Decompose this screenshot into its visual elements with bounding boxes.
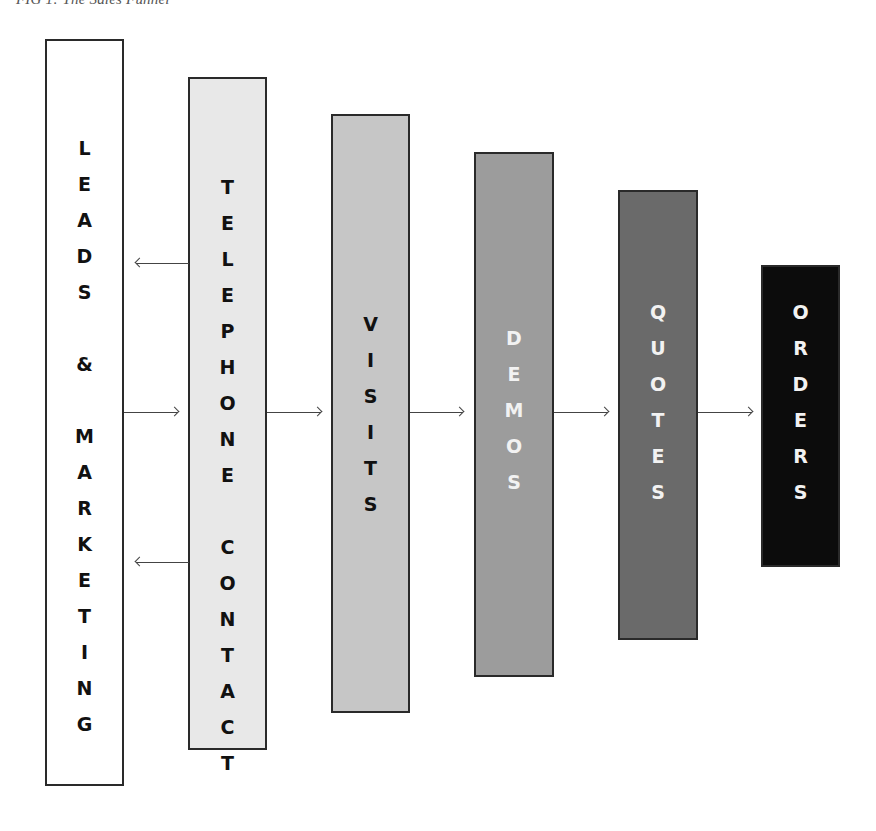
- stage-letter: G: [47, 706, 122, 742]
- stage-letter: O: [620, 366, 696, 402]
- stage-label: ORDERS: [763, 294, 838, 510]
- stage-letter: S: [333, 378, 408, 414]
- stage-letter: S: [620, 474, 696, 510]
- stage-letter: I: [47, 634, 122, 670]
- stage-letter: E: [190, 457, 265, 493]
- stage-quotes: QUOTES: [618, 190, 698, 640]
- arrow-telephone-to-leads-upper: [136, 263, 189, 264]
- stage-letter: O: [476, 428, 552, 464]
- stage-letter: U: [620, 330, 696, 366]
- arrow-telephone-to-visits: [267, 412, 321, 413]
- figure-caption: FIG 1: The Sales Funnel: [16, 0, 170, 8]
- arrow-telephone-to-leads-lower: [136, 562, 189, 563]
- stage-letter: T: [190, 169, 265, 205]
- stage-letter: A: [190, 673, 265, 709]
- stage-letter: E: [620, 438, 696, 474]
- stage-letter: Q: [620, 294, 696, 330]
- stage-letter: O: [763, 294, 838, 330]
- stage-letter: I: [333, 414, 408, 450]
- stage-letter: L: [47, 130, 122, 166]
- arrow-leads-to-telephone: [124, 412, 178, 413]
- stage-letter: V: [333, 306, 408, 342]
- stage-label: LEADS&MARKETING: [47, 130, 122, 742]
- stage-letter: E: [47, 562, 122, 598]
- stage-letter: N: [47, 670, 122, 706]
- stage-letter: K: [47, 526, 122, 562]
- arrow-demos-to-quotes: [554, 412, 608, 413]
- stage-demos: DEMOS: [474, 152, 554, 677]
- stage-letter: O: [190, 565, 265, 601]
- stage-letter: P: [190, 313, 265, 349]
- stage-letter: R: [763, 438, 838, 474]
- stage-label: DEMOS: [476, 320, 552, 500]
- stage-letter: E: [476, 356, 552, 392]
- stage-letter: E: [190, 277, 265, 313]
- stage-letter: A: [47, 454, 122, 490]
- stage-letter: M: [47, 418, 122, 454]
- stage-letter: S: [763, 474, 838, 510]
- stage-label: VISITS: [333, 306, 408, 522]
- stage-leads-marketing: LEADS&MARKETING: [45, 39, 124, 786]
- stage-letter: R: [763, 330, 838, 366]
- stage-letter: C: [190, 709, 265, 745]
- stage-letter: H: [190, 349, 265, 385]
- stage-letter: M: [476, 392, 552, 428]
- arrow-visits-to-demos: [410, 412, 463, 413]
- stage-letter: N: [190, 601, 265, 637]
- stage-letter: E: [47, 166, 122, 202]
- stage-letter: I: [333, 342, 408, 378]
- arrow-quotes-to-orders: [698, 412, 752, 413]
- stage-letter: T: [190, 745, 265, 781]
- stage-letter: S: [333, 486, 408, 522]
- stage-letter: A: [47, 202, 122, 238]
- stage-letter: S: [47, 274, 122, 310]
- stage-visits: VISITS: [331, 114, 410, 713]
- stage-letter: C: [190, 529, 265, 565]
- stage-letter: T: [620, 402, 696, 438]
- stage-letter: D: [763, 366, 838, 402]
- stage-letter: T: [47, 598, 122, 634]
- stage-letter: [47, 382, 122, 418]
- stage-letter: T: [190, 637, 265, 673]
- stage-letter: &: [47, 346, 122, 382]
- stage-orders: ORDERS: [761, 265, 840, 567]
- stage-letter: D: [47, 238, 122, 274]
- stage-letter: S: [476, 464, 552, 500]
- stage-label: QUOTES: [620, 294, 696, 510]
- stage-letter: L: [190, 241, 265, 277]
- stage-telephone-contact: TELEPHONECONTACT: [188, 77, 267, 750]
- stage-letter: N: [190, 421, 265, 457]
- stage-letter: T: [333, 450, 408, 486]
- stage-letter: E: [763, 402, 838, 438]
- stage-letter: E: [190, 205, 265, 241]
- stage-letter: [47, 310, 122, 346]
- stage-letter: [190, 493, 265, 529]
- stage-label: TELEPHONECONTACT: [190, 169, 265, 781]
- stage-letter: O: [190, 385, 265, 421]
- stage-letter: D: [476, 320, 552, 356]
- stage-letter: R: [47, 490, 122, 526]
